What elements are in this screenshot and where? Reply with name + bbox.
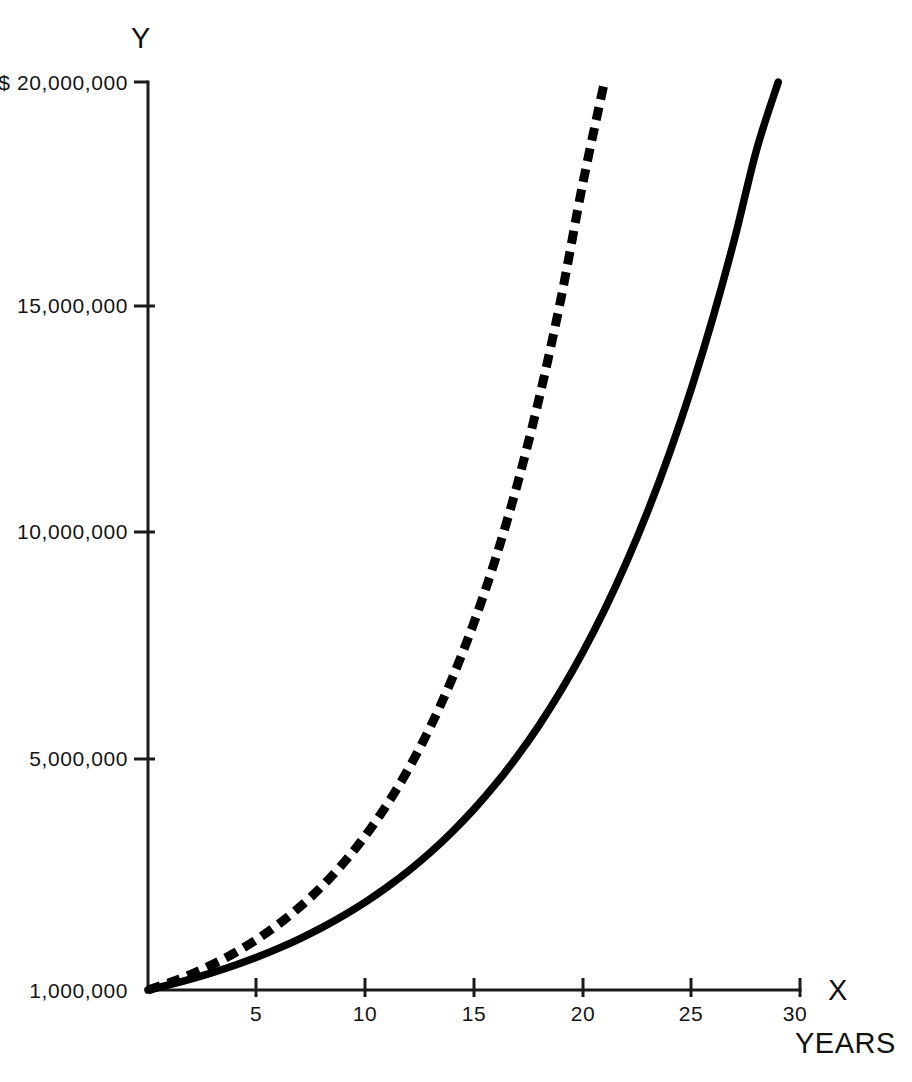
growth-chart: $ 20,000,000 15,000,000 10,000,000 5,000… — [0, 0, 912, 1082]
y-tick-label-10000000: 10,000,000 — [17, 520, 128, 543]
y-axis-title: Y — [131, 22, 150, 54]
y-tick-label-5000000: 5,000,000 — [29, 747, 128, 770]
x-tick-label-15: 15 — [462, 1002, 486, 1025]
series-dashed-growth-curve — [148, 82, 604, 990]
x-tick-label-10: 10 — [353, 1002, 377, 1025]
x-tick-label-25: 25 — [679, 1002, 703, 1025]
x-axis-caption: YEARS — [795, 1027, 896, 1059]
y-tick-label-1000000: 1,000,000 — [29, 979, 128, 1002]
series-solid-growth-curve — [148, 82, 778, 990]
x-tick-label-5: 5 — [250, 1002, 262, 1025]
y-tick-label-20000000: $ 20,000,000 — [0, 71, 128, 94]
x-tick-label-30: 30 — [783, 1002, 807, 1025]
y-tick-label-15000000: 15,000,000 — [17, 294, 128, 317]
x-tick-label-20: 20 — [571, 1002, 595, 1025]
chart-canvas: $ 20,000,000 15,000,000 10,000,000 5,000… — [0, 0, 912, 1082]
x-axis-title: X — [828, 974, 847, 1006]
